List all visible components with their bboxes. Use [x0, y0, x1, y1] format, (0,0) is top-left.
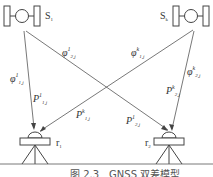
satellite-s1-icon	[4, 6, 40, 26]
signal-s1-r1	[24, 31, 34, 128]
receiver-r1-icon	[20, 132, 50, 164]
receiver-r1-label: r1	[56, 138, 62, 149]
phi-2-k-label: φk2,j	[187, 65, 200, 78]
phi-1-1-label: φ11,j	[10, 72, 24, 85]
p-2-1-label: P12,j	[126, 114, 140, 127]
receiver-r2-icon	[154, 132, 184, 164]
satellite-sk-icon	[173, 6, 209, 26]
figure-caption: 图 2.3 GNSS 双差模型	[70, 166, 180, 177]
satellite-s1-label: S1	[45, 11, 53, 22]
receiver-r2-label: r2	[145, 138, 151, 149]
phi-1-k-label: φk1,j	[131, 46, 144, 59]
signal-sk-r2	[172, 31, 194, 129]
p-2-k-label: Pk2,j	[166, 84, 180, 97]
p-1-1-label: P11,j	[33, 92, 47, 105]
phi-2-1-label: φ12,j	[62, 46, 76, 59]
p-1-k-label: Pk1,j	[76, 108, 90, 121]
satellite-sk-label: Sk	[160, 11, 168, 22]
signal-s1-r2	[26, 31, 168, 130]
gnss-diagram	[0, 0, 213, 177]
